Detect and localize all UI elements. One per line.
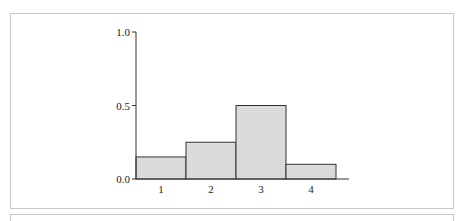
- bar-4: [286, 164, 336, 179]
- y-tick-label: 0.5: [116, 100, 130, 112]
- bars-group: [136, 106, 336, 180]
- bar-3: [236, 106, 286, 180]
- x-tick-label: 1: [158, 183, 164, 195]
- y-tick-label: 0.0: [116, 173, 130, 185]
- x-tick-label: 3: [258, 183, 264, 195]
- bar-1: [136, 157, 186, 179]
- x-ticks-group: 1234: [158, 183, 314, 195]
- bar-chart: 0.00.51.0 1234: [0, 0, 467, 221]
- y-ticks-group: 0.00.51.0: [116, 26, 136, 185]
- bar-2: [186, 142, 236, 179]
- x-tick-label: 4: [308, 183, 314, 195]
- x-tick-label: 2: [208, 183, 214, 195]
- y-tick-label: 1.0: [116, 26, 130, 38]
